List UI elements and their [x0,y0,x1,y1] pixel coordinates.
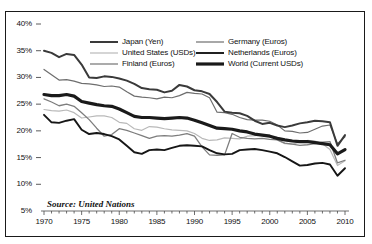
x-axis-label: 2005 [292,217,322,226]
y-axis-label: 40% [2,19,32,28]
legend-label: Finland (Euros) [122,59,174,68]
y-axis-label: 25% [2,99,32,108]
y-axis-label: 20% [2,126,32,135]
x-axis-label: 1980 [104,217,134,226]
y-axis-label: 30% [2,72,32,81]
legend-label: United States (USDs) [122,48,195,57]
x-axis-label: 1985 [142,217,172,226]
x-axis-label: 2000 [255,217,285,226]
y-axis-label: 15% [2,153,32,162]
legend-label: Japan (Yen) [122,37,163,46]
legend-label: Netherlands (Euros) [228,48,297,57]
x-axis-label: 2010 [330,217,360,226]
legend-label: Germany (Euros) [228,37,287,46]
x-axis-label: 1990 [180,217,210,226]
legend-label: World (Current USDs) [228,59,303,68]
series-line-germany-euros [44,69,345,143]
x-axis-label: 1995 [217,217,247,226]
x-axis-label: 1975 [67,217,97,226]
y-axis-label: 35% [2,46,32,55]
source-annotation: Source: United Nations [47,199,135,209]
y-axis-label: 10% [2,179,32,188]
series-line-finland-euros [44,99,345,163]
x-axis-label: 1970 [29,217,59,226]
chart-figure: 40%35%30%25%20%15%10%5%19701975198019851… [0,0,372,244]
series-line-united-states-usds [44,109,345,165]
y-axis-label: 5% [2,206,32,215]
